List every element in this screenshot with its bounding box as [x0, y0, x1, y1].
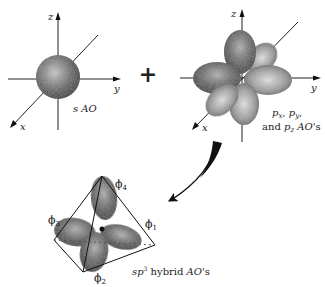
phi1-label: ϕ1	[145, 218, 157, 232]
p-x-label: x	[202, 122, 208, 133]
phi3-label: ϕ3	[48, 214, 60, 228]
p-x-arrow-icon	[192, 122, 199, 130]
s-z-label: z	[47, 11, 54, 22]
p-z-label: z	[230, 8, 237, 19]
hybrid-nucleus	[100, 227, 105, 232]
s-orbital-caption: s AO	[73, 103, 97, 114]
s-y-arrow-icon	[113, 77, 121, 82]
s-z-arrow-icon	[56, 12, 61, 20]
s-y-label: y	[113, 83, 120, 94]
sp3-hybrid-caption: sp3 hybrid AO's	[132, 265, 210, 277]
p-y-arrow-icon	[313, 76, 321, 81]
p-y-label: y	[310, 82, 317, 93]
transformation-arrow	[169, 142, 218, 201]
plus-operator: +	[139, 61, 157, 87]
p-orbitals-panel: z y x px, py, and pz AO's	[180, 8, 321, 142]
p-orbitals-caption-line2: and pz AO's	[262, 121, 321, 134]
phi2-label: ϕ2	[94, 272, 106, 286]
phi4-label: ϕ4	[115, 178, 128, 192]
s-x-label: x	[20, 121, 26, 132]
s-orbital-panel: z y x s AO	[8, 11, 121, 132]
p-orbitals-caption-line1: px, py,	[272, 107, 302, 120]
s-orbital-sphere	[36, 55, 80, 99]
hybridization-diagram: z y x s AO + z y x px, py, and pz AO's	[0, 0, 325, 287]
p-z-arrow-icon	[240, 9, 245, 17]
sp3-hybrid-panel: ϕ1 ϕ2 ϕ3 ϕ4 sp3 hybrid AO's	[48, 175, 210, 286]
